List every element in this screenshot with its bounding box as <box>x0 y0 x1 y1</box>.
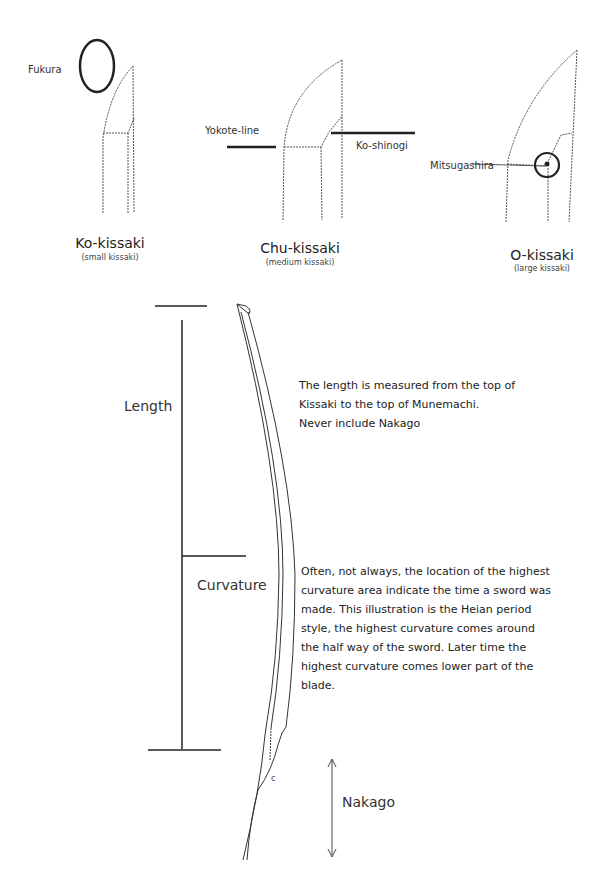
chu-kissaki-drawing <box>283 60 342 220</box>
curvature-note-line: blade. <box>301 676 603 695</box>
curvature-label: Curvature <box>197 577 267 593</box>
curvature-note-line: style, the highest curvature comes aroun… <box>301 619 603 638</box>
curvature-note-line: curvature area indicate the time a sword… <box>301 581 603 600</box>
length-note-line: Kissaki to the top of Munemachi. <box>299 395 599 414</box>
fukura-circle <box>80 40 114 92</box>
ko-shinogi-label: Ko-shinogi <box>356 140 408 151</box>
curvature-note-line: the half way of the sword. Later time th… <box>301 638 603 657</box>
nakago-label: Nakago <box>342 794 395 810</box>
curvature-note-line: highest curvature comes lower part of th… <box>301 657 603 676</box>
nakago-arrow <box>328 759 336 857</box>
curvature-note-line: made. This illustration is the Heian per… <box>301 600 603 619</box>
curvature-note-line: Often, not always, the location of the h… <box>301 562 603 581</box>
ko-kissaki-title: Ko-kissaki <box>55 235 165 251</box>
mekugi-mark: c <box>271 774 275 783</box>
length-measure <box>148 306 246 750</box>
length-note: The length is measured from the top of K… <box>299 376 599 433</box>
length-label: Length <box>124 398 172 414</box>
length-note-line: The length is measured from the top of <box>299 376 599 395</box>
chu-kissaki-title: Chu-kissaki <box>240 240 360 256</box>
o-kissaki-title: O-kissaki <box>487 247 597 263</box>
fukura-label: Fukura <box>28 64 62 75</box>
o-kissaki-drawing <box>506 50 577 222</box>
yokote-line-label: Yokote-line <box>205 125 259 136</box>
o-kissaki-subtitle: (large kissaki) <box>487 264 597 273</box>
curvature-note: Often, not always, the location of the h… <box>301 562 603 695</box>
mitsugashira-label: Mitsugashira <box>430 160 494 171</box>
length-note-line: Never include Nakago <box>299 414 599 433</box>
diagram-drawing <box>0 0 603 886</box>
chu-kissaki-subtitle: (medium kissaki) <box>240 258 360 267</box>
ko-kissaki-subtitle: (small kissaki) <box>55 253 165 262</box>
